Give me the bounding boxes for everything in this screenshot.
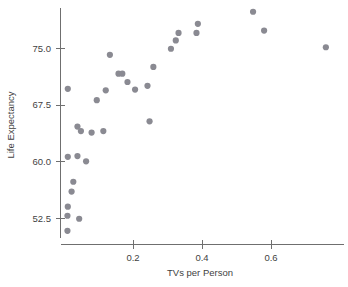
x-tick-group: 0.20.40.6 — [126, 240, 277, 263]
data-point — [94, 97, 100, 103]
data-point — [146, 118, 152, 124]
data-point — [107, 52, 113, 58]
data-point — [89, 130, 95, 136]
data-point — [65, 154, 71, 160]
plot-area: 52.560.067.575.0 0.20.40.6 TVs per Perso… — [0, 0, 348, 287]
data-point — [64, 228, 70, 234]
data-point — [100, 128, 106, 134]
x-axis-title: TVs per Person — [167, 267, 233, 278]
data-point — [76, 216, 82, 222]
y-axis: 52.560.067.575.0 — [33, 8, 66, 238]
x-tick-label: 0.6 — [264, 252, 277, 263]
data-point — [144, 83, 150, 89]
data-point — [124, 79, 130, 85]
data-point — [195, 21, 201, 27]
data-point — [78, 128, 84, 134]
x-axis: 0.20.40.6 — [61, 240, 345, 263]
data-point — [132, 86, 138, 92]
data-point — [193, 30, 199, 36]
x-tick-label: 0.4 — [195, 252, 208, 263]
data-point — [150, 64, 156, 70]
data-point — [250, 9, 256, 15]
data-point — [119, 71, 125, 77]
data-point — [68, 188, 74, 194]
data-point — [65, 86, 71, 92]
data-point — [64, 213, 70, 219]
data-point — [74, 153, 80, 159]
data-point — [173, 37, 179, 43]
y-axis-title: Life Expectancy — [5, 91, 16, 158]
y-tick-label: 52.5 — [33, 213, 52, 224]
scatter-chart: 52.560.067.575.0 0.20.40.6 TVs per Perso… — [0, 0, 348, 287]
data-point — [70, 179, 76, 185]
data-point — [261, 28, 267, 34]
data-point — [83, 158, 89, 164]
y-tick-label: 75.0 — [33, 43, 52, 54]
data-point — [65, 204, 71, 210]
data-point — [103, 87, 109, 93]
y-tick-label: 67.5 — [33, 99, 52, 110]
y-tick-label: 60.0 — [33, 156, 52, 167]
data-point-group — [64, 9, 329, 234]
data-point — [168, 46, 174, 52]
data-point — [175, 30, 181, 36]
x-tick-label: 0.2 — [126, 252, 139, 263]
data-point — [323, 44, 329, 50]
